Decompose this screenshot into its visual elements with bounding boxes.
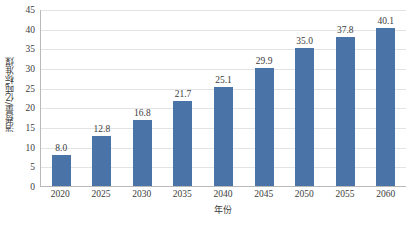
- x-axis-tick-label: 2055: [325, 189, 366, 199]
- y-axis-tick-label: 35: [26, 44, 36, 54]
- plot-area: 8.012.816.821.725.129.935.037.840.1: [40, 10, 406, 187]
- bar-slot: 8.0: [41, 10, 82, 186]
- bar-slot: 29.9: [244, 10, 285, 186]
- x-axis-tick-label: 2045: [243, 189, 284, 199]
- bars-container: 8.012.816.821.725.129.935.037.840.1: [41, 10, 406, 186]
- y-axis-tick-labels: 051015202530354045: [16, 10, 38, 187]
- bar-slot: 35.0: [284, 10, 325, 186]
- bar[interactable]: [295, 48, 314, 186]
- y-axis-tick-label: 40: [26, 25, 36, 35]
- bar-value-label: 37.8: [337, 25, 354, 35]
- bar-value-label: 21.7: [175, 89, 192, 99]
- y-axis-tick-label: 20: [26, 103, 36, 113]
- bar-value-label: 25.1: [215, 75, 232, 85]
- bar-value-label: 12.8: [94, 124, 111, 134]
- x-axis-tick-label: 2020: [40, 189, 81, 199]
- x-axis-tick-label: 2050: [284, 189, 325, 199]
- x-axis-tick-label: 2025: [81, 189, 122, 199]
- y-axis-tick-label: 15: [26, 123, 36, 133]
- bar[interactable]: [214, 87, 233, 186]
- bar-slot: 40.1: [366, 10, 407, 186]
- y-axis-tick-label: 10: [26, 143, 36, 153]
- bar[interactable]: [255, 68, 274, 186]
- y-axis-tick-label: 25: [26, 84, 36, 94]
- bar[interactable]: [92, 136, 111, 186]
- bar-slot: 16.8: [122, 10, 163, 186]
- bar[interactable]: [133, 120, 152, 186]
- bar-value-label: 16.8: [134, 108, 151, 118]
- x-axis-tick-label: 2060: [365, 189, 406, 199]
- bar-value-label: 40.1: [377, 16, 394, 26]
- x-axis-tick-label: 2030: [121, 189, 162, 199]
- y-axis-tick-label: 30: [26, 64, 36, 74]
- bar[interactable]: [52, 155, 71, 186]
- x-axis-title: 年份: [40, 203, 406, 216]
- bar[interactable]: [336, 37, 355, 186]
- bar-slot: 37.8: [325, 10, 366, 186]
- y-axis-title-text: 消费量/亿吨标准煤: [2, 57, 15, 132]
- bar-value-label: 35.0: [296, 36, 313, 46]
- y-axis-title: 消费量/亿吨标准煤: [0, 0, 16, 190]
- x-axis-tick-labels: 202020252030203520402045205020552060: [40, 189, 406, 199]
- x-axis-tick-label: 2035: [162, 189, 203, 199]
- y-axis-tick-label: 5: [30, 162, 35, 172]
- bar[interactable]: [376, 28, 395, 186]
- bar-value-label: 8.0: [55, 143, 67, 153]
- bar-slot: 21.7: [163, 10, 204, 186]
- bar-chart: 消费量/亿吨标准煤 051015202530354045 8.012.816.8…: [0, 0, 414, 228]
- bar[interactable]: [173, 101, 192, 186]
- y-axis-tick-label: 0: [30, 182, 35, 192]
- y-axis-tick-label: 45: [26, 5, 36, 15]
- bar-slot: 25.1: [203, 10, 244, 186]
- bar-slot: 12.8: [82, 10, 123, 186]
- bar-value-label: 29.9: [256, 56, 273, 66]
- x-axis-tick-label: 2040: [203, 189, 244, 199]
